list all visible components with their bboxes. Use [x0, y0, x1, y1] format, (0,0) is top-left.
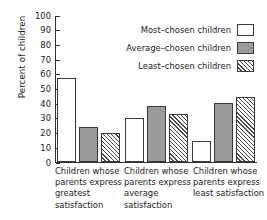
legend-swatch-gray — [237, 42, 254, 54]
tick-label: 80 — [40, 40, 51, 50]
x-label-line: parents express — [124, 177, 191, 188]
legend: Most–chosen childrenAverage–chosen child… — [96, 22, 254, 76]
tick-mark — [56, 60, 60, 61]
x-label-line: least satisfaction — [193, 188, 264, 199]
tick-label: 30 — [40, 113, 51, 123]
bar-g1-white — [57, 78, 76, 162]
bar-chart: Percent of children 10090807060504030201… — [0, 0, 267, 220]
tick-mark — [56, 45, 60, 46]
legend-swatch-white — [237, 24, 254, 36]
tick-mark — [56, 16, 60, 17]
tick-label: 60 — [40, 69, 51, 79]
x-category-label-2: Children whoseparents expressaveragesati… — [124, 166, 191, 211]
tick-label: 100 — [35, 11, 51, 21]
legend-item-hatch: Least–chosen children — [96, 58, 254, 74]
x-label-line: parents express — [193, 177, 264, 188]
tick-label: 90 — [40, 25, 51, 35]
bar-g1-hatch — [101, 133, 120, 162]
x-label-line: Children whose — [55, 166, 122, 177]
bar-g3-gray — [214, 103, 233, 162]
tick-label: 10 — [40, 143, 51, 153]
tick-mark — [56, 30, 60, 31]
bar-g2-hatch — [169, 114, 188, 163]
legend-item-white: Most–chosen children — [96, 22, 254, 38]
tick-label: 20 — [40, 128, 51, 138]
legend-label: Least–chosen children — [138, 61, 231, 71]
legend-item-gray: Average–chosen children — [96, 40, 254, 56]
bar-g1-gray — [79, 127, 98, 162]
x-category-label-1: Children whoseparents expressgreatestsat… — [55, 166, 122, 211]
bar-g3-white — [192, 141, 211, 162]
y-axis-title: Percent of children — [17, 0, 27, 127]
tick-label: 50 — [40, 84, 51, 94]
x-label-line: satisfaction — [55, 200, 122, 211]
tick-label: 40 — [40, 99, 51, 109]
x-label-line: Children whose — [124, 166, 191, 177]
tick-mark — [56, 74, 60, 75]
x-label-line: Children whose — [193, 166, 264, 177]
x-category-label-3: Children whoseparents expressleast satis… — [193, 166, 264, 200]
legend-label: Average–chosen children — [126, 43, 231, 53]
bar-g2-white — [125, 118, 144, 162]
legend-label: Most–chosen children — [141, 25, 231, 35]
x-label-line: greatest — [55, 188, 122, 199]
tick-label: 70 — [40, 55, 51, 65]
x-label-line: average — [124, 188, 191, 199]
bar-g3-hatch — [236, 97, 255, 162]
x-label-line: parents express — [55, 177, 122, 188]
tick-label: 0 — [46, 158, 51, 168]
legend-swatch-hatch — [237, 60, 254, 72]
x-axis-labels: Children whoseparents expressgreatestsat… — [55, 166, 267, 218]
tick-mark — [56, 163, 60, 164]
bar-g2-gray — [147, 106, 166, 162]
x-label-line: satisfaction — [124, 200, 191, 211]
